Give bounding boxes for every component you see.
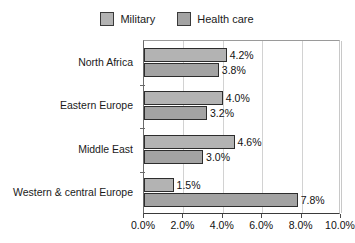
bar-value-label: 3.2% bbox=[210, 108, 234, 119]
category-axis-labels: North AfricaEastern EuropeMiddle EastWes… bbox=[0, 40, 139, 214]
bar-value-label: 1.5% bbox=[177, 180, 201, 191]
bar-value-label: 7.8% bbox=[301, 195, 325, 206]
bar-group: 4.6%3.0% bbox=[144, 128, 339, 172]
bar-health-care[interactable]: 3.2% bbox=[144, 106, 339, 120]
legend-entry-health-care[interactable]: Health care bbox=[177, 12, 253, 26]
x-axis-tick bbox=[143, 214, 144, 218]
legend-label-military: Military bbox=[120, 14, 155, 25]
bar-military[interactable]: 1.5% bbox=[144, 178, 339, 192]
bar-value-label: 4.6% bbox=[238, 137, 262, 148]
category-label: Middle East bbox=[78, 143, 133, 154]
x-axis-tick-label: 0.0% bbox=[131, 220, 155, 231]
x-axis: 0.0%2.0%4.0%6.0%8.0%10.0% bbox=[143, 214, 340, 242]
legend-swatch-military bbox=[100, 12, 114, 26]
bar-health-care[interactable]: 3.8% bbox=[144, 63, 339, 77]
x-axis-tick bbox=[222, 214, 223, 218]
bar-group: 4.2%3.8% bbox=[144, 41, 339, 85]
category-tick bbox=[140, 85, 145, 86]
bar-value-label: 4.0% bbox=[226, 93, 250, 104]
x-axis-tick bbox=[182, 214, 183, 218]
x-axis-tick-label: 8.0% bbox=[289, 220, 313, 231]
x-axis-tick bbox=[261, 214, 262, 218]
bar-rect bbox=[144, 106, 207, 120]
x-axis-tick-label: 4.0% bbox=[210, 220, 234, 231]
legend-swatch-health-care bbox=[177, 12, 191, 26]
bar-military[interactable]: 4.6% bbox=[144, 135, 339, 149]
bar-rect bbox=[144, 91, 223, 105]
bar-value-label: 4.2% bbox=[230, 50, 254, 61]
bar-rect bbox=[144, 178, 174, 192]
bar-military[interactable]: 4.0% bbox=[144, 91, 339, 105]
category-label: Eastern Europe bbox=[60, 100, 133, 111]
bar-rect bbox=[144, 63, 219, 77]
bar-rect bbox=[144, 48, 227, 62]
bar-rect bbox=[144, 150, 203, 164]
legend-entry-military[interactable]: Military bbox=[100, 12, 155, 26]
category-label: Western & central Europe bbox=[13, 187, 133, 198]
bar-group: 4.0%3.2% bbox=[144, 85, 339, 129]
plot-area: 4.2%3.8%4.0%3.2%4.6%3.0%1.5%7.8% bbox=[143, 40, 340, 214]
x-axis-tick-label: 6.0% bbox=[249, 220, 273, 231]
legend-label-health-care: Health care bbox=[197, 14, 253, 25]
bar-military[interactable]: 4.2% bbox=[144, 48, 339, 62]
bar-rect bbox=[144, 193, 298, 207]
category-tick bbox=[140, 172, 145, 173]
x-axis-tick bbox=[301, 214, 302, 218]
x-axis-tick-label: 2.0% bbox=[170, 220, 194, 231]
bar-value-label: 3.0% bbox=[206, 152, 230, 163]
chart-legend: Military Health care bbox=[0, 12, 354, 26]
bar-health-care[interactable]: 3.0% bbox=[144, 150, 339, 164]
x-axis-tick bbox=[340, 214, 341, 218]
category-tick bbox=[140, 128, 145, 129]
bar-group: 1.5%7.8% bbox=[144, 172, 339, 216]
x-axis-tick-label: 10.0% bbox=[325, 220, 355, 231]
bar-value-label: 3.8% bbox=[222, 65, 246, 76]
bar-groups: 4.2%3.8%4.0%3.2%4.6%3.0%1.5%7.8% bbox=[144, 41, 339, 213]
gridline bbox=[341, 41, 342, 213]
bar-health-care[interactable]: 7.8% bbox=[144, 193, 339, 207]
bar-rect bbox=[144, 135, 235, 149]
category-label: North Africa bbox=[78, 56, 133, 67]
